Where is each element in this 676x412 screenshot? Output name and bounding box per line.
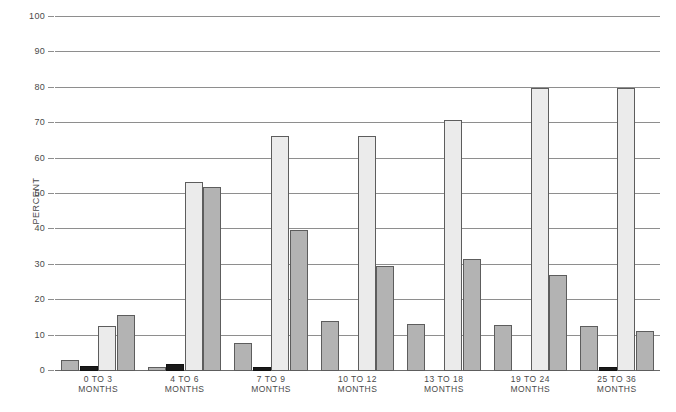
y-tick-mark-50 (48, 193, 54, 194)
bar (117, 315, 135, 371)
x-axis-label-group-5: 13 TO 18MONTHS (401, 374, 487, 394)
x-axis-label-range: 19 TO 24 (487, 374, 573, 384)
y-tick-label-20: 20 (34, 294, 45, 304)
bar (494, 325, 512, 371)
bar (234, 343, 252, 371)
x-axis-label-unit: MONTHS (574, 384, 660, 394)
bar (271, 136, 289, 371)
y-tick-mark-0 (48, 370, 54, 371)
y-tick-label-70: 70 (34, 117, 45, 127)
x-axis-label-unit: MONTHS (314, 384, 400, 394)
bar-chart: PERCENT 0102030405060708090100 0 TO 3MON… (0, 0, 676, 412)
y-tick-mark-10 (48, 335, 54, 336)
x-axis-label-unit: MONTHS (401, 384, 487, 394)
y-tick-label-100: 100 (29, 11, 45, 21)
bar (444, 120, 462, 371)
y-tick-mark-30 (48, 264, 54, 265)
bar (185, 182, 203, 371)
bar (580, 326, 598, 371)
x-axis-label-unit: MONTHS (487, 384, 573, 394)
bar (203, 187, 221, 371)
x-axis-category-labels: 0 TO 3MONTHS4 TO 6MONTHS7 TO 9MONTHS10 T… (55, 374, 660, 404)
x-axis-label-range: 10 TO 12 (314, 374, 400, 384)
bar (61, 360, 79, 371)
x-axis-label-unit: MONTHS (55, 384, 141, 394)
x-axis-label-group-6: 19 TO 24MONTHS (487, 374, 573, 394)
y-tick-label-30: 30 (34, 259, 45, 269)
y-tick-label-50: 50 (34, 188, 45, 198)
y-tick-mark-70 (48, 122, 54, 123)
y-tick-mark-100 (48, 16, 54, 17)
x-axis-label-group-1: 0 TO 3MONTHS (55, 374, 141, 394)
bar (290, 230, 308, 371)
bar (321, 321, 339, 371)
y-tick-label-10: 10 (34, 330, 45, 340)
x-axis-label-group-3: 7 TO 9MONTHS (228, 374, 314, 394)
y-tick-label-90: 90 (34, 46, 45, 56)
y-tick-mark-40 (48, 228, 54, 229)
y-tick-mark-80 (48, 87, 54, 88)
bar (253, 367, 271, 371)
y-tick-label-0: 0 (40, 365, 45, 375)
x-axis-label-range: 0 TO 3 (55, 374, 141, 384)
x-axis-label-group-2: 4 TO 6MONTHS (141, 374, 227, 394)
y-tick-mark-90 (48, 51, 54, 52)
bar (407, 324, 425, 371)
plot-area: 0102030405060708090100 (55, 17, 660, 371)
x-axis-label-range: 25 TO 36 (574, 374, 660, 384)
bar (148, 367, 166, 371)
x-axis-label-unit: MONTHS (228, 384, 314, 394)
y-tick-mark-60 (48, 158, 54, 159)
bar (376, 266, 394, 371)
bar (549, 275, 567, 371)
bars-group (55, 17, 660, 371)
y-tick-mark-20 (48, 299, 54, 300)
bar (636, 331, 654, 371)
y-tick-label-60: 60 (34, 153, 45, 163)
bar (358, 136, 376, 371)
y-tick-label-40: 40 (34, 223, 45, 233)
y-tick-label-80: 80 (34, 82, 45, 92)
bar (166, 364, 184, 371)
bar (531, 88, 549, 371)
x-axis-label-group-4: 10 TO 12MONTHS (314, 374, 400, 394)
x-axis-label-range: 4 TO 6 (141, 374, 227, 384)
x-axis-label-unit: MONTHS (141, 384, 227, 394)
bar (463, 259, 481, 371)
bar (80, 366, 98, 371)
x-axis-label-range: 13 TO 18 (401, 374, 487, 384)
x-axis-label-group-7: 25 TO 36MONTHS (574, 374, 660, 394)
bar (599, 367, 617, 371)
bar (617, 88, 635, 371)
x-axis-label-range: 7 TO 9 (228, 374, 314, 384)
bar (98, 326, 116, 371)
